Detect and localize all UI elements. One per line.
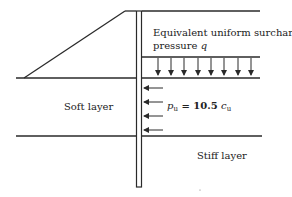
surcharge-symbol-q: q [201, 40, 207, 51]
pile [137, 11, 142, 187]
stiff-layer-label: Stiff layer [197, 150, 247, 161]
pressure-equals-value: = 10.5 [178, 100, 221, 111]
surcharge-label-line2: pressure q [153, 40, 207, 51]
embankment-slope [24, 11, 125, 78]
pressure-formula: pu = 10.5 cu [167, 100, 232, 113]
stray-mark [199, 189, 200, 190]
pile-diagram: Equivalent uniform surcharge pressure q … [0, 0, 292, 197]
surcharge-arrows [158, 58, 251, 75]
embankment [24, 11, 136, 78]
pressure-subscript-cu: u [227, 105, 232, 113]
surcharge-label-prefix: pressure [153, 40, 201, 51]
surcharge-label-line1: Equivalent uniform surcharge [153, 27, 292, 38]
lateral-pressure-arrows [144, 88, 163, 130]
soft-layer-label: Soft layer [64, 101, 113, 112]
